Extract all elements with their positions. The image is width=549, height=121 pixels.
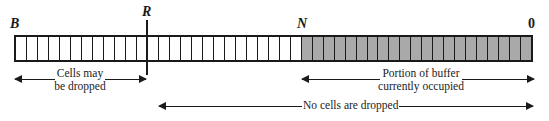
- buffer-cell-occupied: [389, 37, 400, 60]
- buffer-cell-occupied: [368, 37, 379, 60]
- buffer-cell-empty: [115, 37, 126, 60]
- buffer-cell-empty: [16, 37, 27, 60]
- buffer-cell-empty: [269, 37, 280, 60]
- buffer-cell-occupied: [411, 37, 422, 60]
- arrowhead-left-icon: [158, 102, 166, 110]
- buffer-cell-empty: [60, 37, 71, 60]
- buffer-cell-occupied: [335, 37, 346, 60]
- occupied-region-line1: Portion of buffer: [380, 67, 461, 80]
- buffer-cell-occupied: [378, 37, 389, 60]
- buffer-cell-occupied: [302, 37, 313, 60]
- arrowhead-right-icon: [527, 75, 535, 83]
- buffer-cell-empty: [203, 37, 214, 60]
- buffer-cell-empty: [225, 37, 236, 60]
- buffer-cell-empty: [280, 37, 291, 60]
- buffer-cell-occupied: [346, 37, 357, 60]
- buffer-cell-occupied: [357, 37, 368, 60]
- buffer-cell-empty: [148, 37, 159, 60]
- buffer-cell-occupied: [488, 37, 499, 60]
- buffer-cell-occupied: [510, 37, 521, 60]
- drop-region-line1: Cells may: [55, 67, 105, 80]
- marker-n-label: N: [297, 17, 307, 31]
- buffer-cells: [14, 35, 533, 62]
- buffer-cell-empty: [247, 37, 258, 60]
- threshold-r-line: [146, 20, 148, 75]
- buffer-cell-empty: [27, 37, 38, 60]
- buffer-cell-occupied: [400, 37, 411, 60]
- buffer-cell-empty: [49, 37, 60, 60]
- buffer-cell-occupied: [466, 37, 477, 60]
- buffer-cell-occupied: [521, 37, 531, 60]
- arrowhead-left-icon: [14, 75, 22, 83]
- occupied-region-caption: Portion of buffer currently occupied: [361, 67, 481, 93]
- buffer-cell-occupied: [499, 37, 510, 60]
- buffer-cell-empty: [126, 37, 137, 60]
- buffer-cell-empty: [192, 37, 203, 60]
- buffer-cell-occupied: [444, 37, 455, 60]
- buffer-cell-empty: [291, 37, 302, 60]
- buffer-cell-occupied: [324, 37, 335, 60]
- buffer-cell-empty: [159, 37, 170, 60]
- buffer-cell-empty: [170, 37, 181, 60]
- marker-b-label: B: [10, 17, 19, 31]
- no-drop-region-label: No cells are dropped: [302, 99, 399, 112]
- buffer-cell-empty: [236, 37, 247, 60]
- buffer-cell-empty: [104, 37, 115, 60]
- arrowhead-right-icon: [139, 75, 147, 83]
- buffer-cell-occupied: [422, 37, 433, 60]
- buffer-cell-empty: [214, 37, 225, 60]
- buffer-cell-empty: [181, 37, 192, 60]
- buffer-cell-occupied: [313, 37, 324, 60]
- drop-region-caption: Cells may be dropped: [40, 67, 120, 93]
- marker-r-label: R: [142, 5, 151, 19]
- buffer-cell-empty: [71, 37, 82, 60]
- arrowhead-right-icon: [526, 102, 534, 110]
- buffer-cell-occupied: [455, 37, 466, 60]
- buffer-cell-empty: [38, 37, 49, 60]
- buffer-cell-empty: [93, 37, 104, 60]
- marker-zero-label: 0: [528, 17, 535, 31]
- buffer-cell-occupied: [477, 37, 488, 60]
- arrowhead-left-icon: [301, 75, 309, 83]
- buffer-cell-occupied: [433, 37, 444, 60]
- buffer-cell-empty: [82, 37, 93, 60]
- occupied-region-line2: currently occupied: [361, 80, 481, 93]
- buffer-cell-empty: [258, 37, 269, 60]
- drop-region-line2: be dropped: [40, 80, 120, 93]
